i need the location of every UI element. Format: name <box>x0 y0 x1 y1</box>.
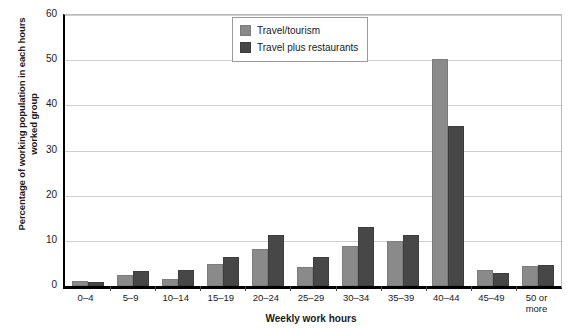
bar-group <box>426 15 471 286</box>
bar <box>178 270 194 286</box>
bar-group <box>155 15 200 286</box>
legend: Travel/tourism Travel plus restaurants <box>232 17 368 62</box>
bar <box>133 271 149 286</box>
bar-chart: Percentage of working population in each… <box>0 0 569 329</box>
bar-group <box>516 15 561 286</box>
legend-label-travel-plus-restaurants: Travel plus restaurants <box>257 42 358 53</box>
legend-swatch-travel-tourism <box>240 25 251 36</box>
bar <box>297 267 313 286</box>
bar <box>313 257 329 286</box>
x-tick-label: 0–4 <box>63 292 108 314</box>
x-tick-label: 40–44 <box>424 292 469 314</box>
x-tick-mark <box>471 286 472 291</box>
bar <box>358 227 374 286</box>
bar-group <box>110 15 155 286</box>
x-tick-label: 35–39 <box>379 292 424 314</box>
bar-group <box>381 15 426 286</box>
x-axis-tick-labels: 0–45–910–1415–1920–2425–2930–3435–3940–4… <box>63 292 559 314</box>
x-tick-label: 25–29 <box>288 292 333 314</box>
bar <box>538 265 554 286</box>
bar-group <box>471 15 516 286</box>
y-tick-label: 0 <box>31 280 57 290</box>
x-tick-label: 45–49 <box>469 292 514 314</box>
bar <box>223 257 239 286</box>
bar <box>477 270 493 286</box>
bar <box>342 246 358 286</box>
x-tick-mark <box>381 286 382 291</box>
bar <box>493 273 509 286</box>
legend-item: Travel plus restaurants <box>240 39 358 56</box>
bar <box>448 126 464 286</box>
x-tick-mark <box>516 286 517 291</box>
bar <box>522 266 538 286</box>
x-tick-mark <box>200 286 201 291</box>
legend-swatch-travel-plus-restaurants <box>240 42 251 53</box>
y-axis-title: Percentage of working population in each… <box>16 0 40 248</box>
bar <box>432 59 448 286</box>
x-tick-label: 50 or more <box>514 292 559 314</box>
bar <box>207 264 223 286</box>
bar <box>117 275 133 286</box>
x-tick-label: 20–24 <box>243 292 288 314</box>
x-tick-mark <box>110 286 111 291</box>
x-tick-label: 15–19 <box>198 292 243 314</box>
x-tick-mark <box>245 286 246 291</box>
x-tick-mark <box>336 286 337 291</box>
x-tick-mark <box>426 286 427 291</box>
bar <box>387 241 403 286</box>
x-axis-title: Weekly work hours <box>63 313 559 324</box>
x-tick-label: 10–14 <box>153 292 198 314</box>
x-tick-label: 5–9 <box>108 292 153 314</box>
x-tick-mark <box>155 286 156 291</box>
bar <box>162 279 178 286</box>
x-tick-mark <box>290 286 291 291</box>
bar <box>252 249 268 286</box>
legend-label-travel-tourism: Travel/tourism <box>257 25 320 36</box>
bar-group <box>65 15 110 286</box>
bar <box>268 235 284 286</box>
legend-item: Travel/tourism <box>240 22 358 39</box>
x-tick-label: 30–34 <box>334 292 379 314</box>
bar <box>403 235 419 286</box>
